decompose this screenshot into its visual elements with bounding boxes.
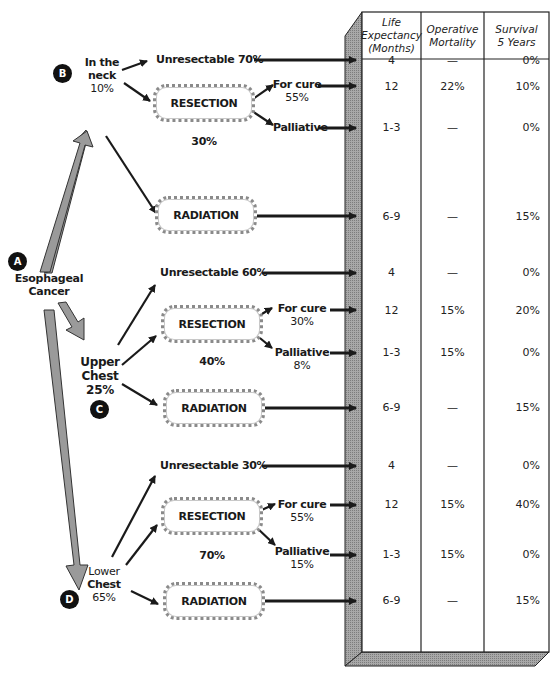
- location-line2: Chest: [78, 369, 122, 383]
- header-line: Operative: [427, 23, 479, 36]
- for-cure-pct: 55%: [274, 511, 330, 524]
- radiation-box: RADIATION: [155, 196, 257, 234]
- badge-a: A: [8, 252, 27, 271]
- table-frame: [345, 12, 549, 666]
- for-cure-text: For cure: [272, 78, 322, 91]
- cell-mortality: 22%: [421, 80, 484, 93]
- for-cure-label: For cure 55%: [274, 498, 330, 524]
- section-c-arrows: [118, 285, 272, 405]
- location-pct: 10%: [82, 82, 122, 95]
- location-line1: Lower: [84, 565, 124, 578]
- root-label: Esophageal Cancer: [14, 272, 84, 298]
- cell-mortality: —: [421, 459, 484, 472]
- cell-mortality: 15%: [421, 304, 484, 317]
- cell-survival: 0%: [484, 54, 540, 67]
- cell-survival: 15%: [484, 210, 540, 223]
- cell-mortality: 15%: [421, 346, 484, 359]
- radiation-box: RADIATION: [163, 582, 265, 620]
- unresectable-label: Unresectable 60%: [160, 266, 267, 279]
- cell-survival: 15%: [484, 401, 540, 414]
- cell-survival: 0%: [484, 459, 540, 472]
- badge-c: C: [90, 400, 109, 419]
- cell-life: 1-3: [362, 121, 421, 134]
- palliative-label: Palliative 15%: [274, 545, 330, 571]
- unresectable-label: Unresectable 30%: [160, 459, 267, 472]
- resection-pct: 30%: [153, 135, 255, 148]
- unresectable-label: Unresectable 70%: [156, 53, 263, 66]
- root-label-line1: Esophageal: [14, 272, 84, 285]
- cell-survival: 10%: [484, 80, 540, 93]
- cell-survival: 40%: [484, 498, 540, 511]
- header-line: Expectancy: [361, 29, 422, 42]
- badge-b: B: [53, 64, 72, 83]
- cell-survival: 15%: [484, 594, 540, 607]
- cell-survival: 0%: [484, 346, 540, 359]
- cell-life: 6-9: [362, 210, 421, 223]
- resection-box: RESECTION: [161, 497, 263, 535]
- gray-arrow-to-upper-chest: [58, 302, 84, 340]
- location-pct: 65%: [84, 591, 124, 604]
- header-life-expectancy: Life Expectancy (Months): [362, 12, 421, 59]
- badge-d: D: [60, 590, 79, 609]
- section-d-result-lines: [255, 466, 356, 601]
- gray-arrow-to-neck: [40, 130, 93, 273]
- cell-mortality: —: [421, 210, 484, 223]
- cell-mortality: —: [421, 594, 484, 607]
- location-pct: 25%: [78, 383, 122, 397]
- section-c-result-lines: [255, 273, 356, 408]
- location-upper-chest: Upper Chest 25%: [78, 355, 122, 397]
- location-line1: Upper: [78, 355, 122, 369]
- cell-life: 1-3: [362, 346, 421, 359]
- cell-life: 6-9: [362, 401, 421, 414]
- palliative-label: Palliative: [273, 121, 328, 134]
- cell-mortality: —: [421, 121, 484, 134]
- radiation-box: RADIATION: [163, 389, 265, 427]
- for-cure-pct: 30%: [274, 315, 330, 328]
- cell-survival: 0%: [484, 548, 540, 561]
- header-operative-mortality: Operative Mortality: [421, 12, 484, 59]
- cell-mortality: —: [421, 54, 484, 67]
- cell-life: 12: [362, 498, 421, 511]
- cell-mortality: 15%: [421, 498, 484, 511]
- palliative-text: Palliative: [274, 346, 330, 359]
- cell-life: 12: [362, 80, 421, 93]
- cell-mortality: 15%: [421, 548, 484, 561]
- gray-arrow-to-lower-chest: [44, 310, 88, 590]
- root-label-line2: Cancer: [14, 285, 84, 298]
- cell-life: 1-3: [362, 548, 421, 561]
- palliative-text: Palliative: [274, 545, 330, 558]
- location-lower-chest: Lower Chest 65%: [84, 565, 124, 604]
- cell-survival: 0%: [484, 266, 540, 279]
- header-line: 5 Years: [498, 36, 536, 49]
- palliative-pct: 8%: [274, 359, 330, 372]
- for-cure-text: For cure: [274, 302, 330, 315]
- header-survival-5-years: Survival 5 Years: [484, 12, 549, 59]
- header-line: Mortality: [429, 36, 476, 49]
- location-line2: neck: [82, 69, 122, 82]
- for-cure-text: For cure: [274, 498, 330, 511]
- cell-life: 12: [362, 304, 421, 317]
- resection-box: RESECTION: [153, 84, 255, 122]
- cell-mortality: —: [421, 401, 484, 414]
- palliative-pct: 15%: [274, 558, 330, 571]
- resection-box: RESECTION: [161, 305, 263, 343]
- resection-pct: 40%: [161, 355, 263, 368]
- cell-life: 4: [362, 266, 421, 279]
- cell-life: 4: [362, 459, 421, 472]
- location-line1: In the: [82, 56, 122, 69]
- for-cure-label: For cure 55%: [272, 78, 322, 104]
- for-cure-label: For cure 30%: [274, 302, 330, 328]
- location-line2: Chest: [84, 578, 124, 591]
- cell-survival: 20%: [484, 304, 540, 317]
- header-line: Life: [382, 16, 401, 29]
- location-neck: In the neck 10%: [82, 56, 122, 95]
- cell-life: 4: [362, 54, 421, 67]
- cell-survival: 0%: [484, 121, 540, 134]
- cell-mortality: —: [421, 266, 484, 279]
- header-line: Survival: [495, 23, 537, 36]
- for-cure-pct: 55%: [272, 91, 322, 104]
- palliative-label: Palliative 8%: [274, 346, 330, 372]
- resection-pct: 70%: [161, 549, 263, 562]
- cell-life: 6-9: [362, 594, 421, 607]
